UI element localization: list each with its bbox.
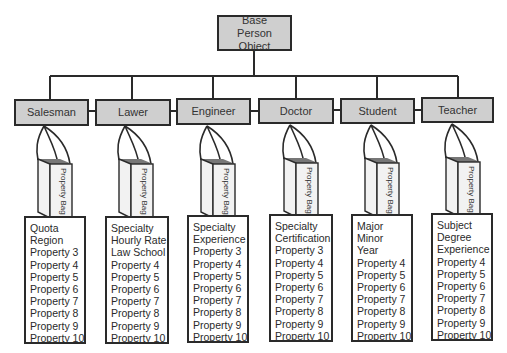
property-item: Property 5 bbox=[437, 268, 491, 280]
class-hierarchy-diagram: Base Person Object Salesman Lawer Engine… bbox=[0, 0, 507, 353]
property-item: Property 9 bbox=[30, 320, 84, 332]
student-properties: Major Minor Year Property 4 Property 5 P… bbox=[351, 214, 413, 342]
property-item: Property 8 bbox=[275, 305, 331, 317]
base-person-object-node: Base Person Object bbox=[217, 15, 292, 51]
teacher-properties: Subject Degree Experience Property 4 Pro… bbox=[431, 213, 493, 341]
property-item: Degree bbox=[437, 231, 491, 243]
property-item: Property 7 bbox=[111, 295, 167, 307]
property-item: Property 9 bbox=[111, 320, 167, 332]
property-item: Property 3 bbox=[193, 245, 247, 257]
doctor-node: Doctor bbox=[258, 98, 334, 124]
salesman-properties: Quota Region Property 3 Property 4 Prope… bbox=[24, 216, 86, 344]
property-item: Property 8 bbox=[111, 307, 167, 319]
property-item: Region bbox=[30, 234, 84, 246]
property-item: Property 8 bbox=[30, 307, 84, 319]
property-bag-label: Property Bag bbox=[305, 167, 314, 214]
property-item: Property 7 bbox=[357, 293, 411, 305]
property-item: Property 10 bbox=[357, 330, 411, 342]
property-item: Property 10 bbox=[193, 331, 247, 343]
property-item: Property 6 bbox=[275, 281, 331, 293]
property-item: Property 6 bbox=[357, 281, 411, 293]
property-item: Property 5 bbox=[193, 270, 247, 282]
doctor-properties: Specialty Certification Property 3 Prope… bbox=[269, 214, 333, 342]
property-item: Specialty bbox=[275, 220, 331, 232]
node-label: Engineer bbox=[191, 105, 235, 118]
property-item: Property 5 bbox=[30, 271, 84, 283]
property-item: Property 6 bbox=[193, 282, 247, 294]
property-item: Property 8 bbox=[357, 305, 411, 317]
property-item: Property 7 bbox=[437, 292, 491, 304]
property-item: Property 9 bbox=[437, 317, 491, 329]
property-item: Property 5 bbox=[275, 269, 331, 281]
property-bag-label: Property Bag bbox=[59, 168, 68, 215]
property-item: Year bbox=[357, 244, 411, 256]
property-item: Property 7 bbox=[193, 294, 247, 306]
property-item: Property 10 bbox=[275, 330, 331, 342]
property-bag-label: Property Bag bbox=[222, 168, 231, 215]
property-item: Property 4 bbox=[357, 257, 411, 269]
property-item: Property 8 bbox=[437, 304, 491, 316]
property-item: Property 4 bbox=[275, 257, 331, 269]
node-label: Teacher bbox=[438, 104, 477, 117]
property-item: Quota bbox=[30, 222, 84, 234]
teacher-node: Teacher bbox=[421, 97, 494, 123]
property-item: Experience bbox=[437, 243, 491, 255]
property-item: Property 8 bbox=[193, 306, 247, 318]
property-item: Minor bbox=[357, 232, 411, 244]
salesman-node: Salesman bbox=[14, 99, 89, 126]
property-bag-label: Property Bag bbox=[140, 168, 149, 215]
node-label: Doctor bbox=[280, 105, 312, 118]
property-item: Property 5 bbox=[357, 269, 411, 281]
property-item: Specialty bbox=[193, 221, 247, 233]
property-item: Property 6 bbox=[437, 280, 491, 292]
property-item: Property 10 bbox=[30, 332, 84, 344]
property-item: Property 4 bbox=[437, 256, 491, 268]
property-item: Property 6 bbox=[111, 283, 167, 295]
property-item: Property 7 bbox=[275, 293, 331, 305]
property-item: Property 10 bbox=[111, 332, 167, 344]
lawer-node: Lawer bbox=[95, 99, 171, 126]
engineer-properties: Specialty Experience Property 3 Property… bbox=[187, 215, 249, 343]
property-item: Law School bbox=[111, 246, 167, 258]
node-label: Student bbox=[359, 105, 397, 118]
lawer-properties: Specialty Hourly Rate Law School Propert… bbox=[105, 216, 169, 344]
property-item: Property 4 bbox=[193, 258, 247, 270]
property-item: Specialty bbox=[111, 222, 167, 234]
property-item: Property 9 bbox=[275, 318, 331, 330]
property-item: Property 7 bbox=[30, 295, 84, 307]
property-item: Property 3 bbox=[30, 246, 84, 258]
student-node: Student bbox=[340, 98, 415, 124]
node-label: Lawer bbox=[118, 106, 148, 119]
property-item: Certification bbox=[275, 232, 331, 244]
property-item: Major bbox=[357, 220, 411, 232]
node-label: Base Person Object bbox=[225, 14, 285, 53]
property-item: Experience bbox=[193, 233, 247, 245]
property-item: Property 9 bbox=[193, 319, 247, 331]
property-bag-label: Property Bag bbox=[386, 167, 395, 214]
property-bag-label: Property Bag bbox=[467, 166, 476, 213]
property-item: Property 6 bbox=[30, 283, 84, 295]
property-item: Property 5 bbox=[111, 271, 167, 283]
property-item: Property 4 bbox=[30, 259, 84, 271]
property-item: Property 4 bbox=[111, 259, 167, 271]
property-item: Property 10 bbox=[437, 329, 491, 341]
property-item: Property 3 bbox=[275, 244, 331, 256]
engineer-node: Engineer bbox=[176, 98, 251, 125]
node-label: Salesman bbox=[27, 106, 76, 119]
property-item: Subject bbox=[437, 219, 491, 231]
property-item: Property 9 bbox=[357, 318, 411, 330]
property-item: Hourly Rate bbox=[111, 234, 167, 246]
